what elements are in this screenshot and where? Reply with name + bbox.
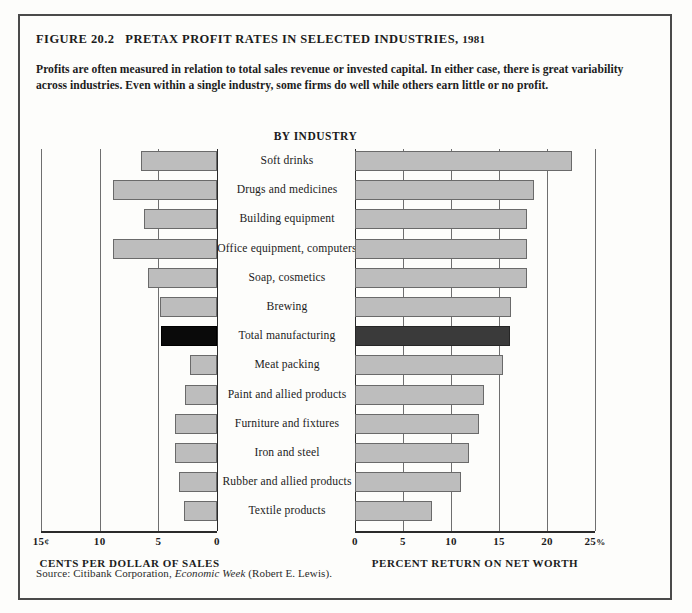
axis-tick-label: 15¢: [33, 535, 49, 547]
bar: [355, 414, 479, 434]
bar: [113, 180, 217, 200]
panel-percent-return: 0510152025% PERCENT RETURN ON NET WORTH: [355, 149, 595, 531]
bar: [190, 355, 217, 375]
figure-page: FIGURE 20.2 PRETAX PROFIT RATES IN SELEC…: [0, 0, 692, 613]
industry-label: Soft drinks: [217, 151, 357, 171]
chart-area: BY INDUSTRY 15¢1050 CENTS PER DOLLAR OF …: [20, 126, 670, 566]
axis-tick-label: 25%: [585, 535, 606, 547]
industry-label: Office equipment, computers: [217, 239, 357, 259]
bar: [355, 355, 503, 375]
panel-cents-per-dollar: 15¢1050 CENTS PER DOLLAR OF SALES: [41, 149, 217, 531]
bar: [184, 501, 217, 521]
gridline: [100, 149, 101, 531]
plot-right: [355, 149, 595, 531]
axis-tick-label: 10: [94, 535, 106, 547]
axis-tick-label: 5: [155, 535, 161, 547]
bar: [355, 443, 469, 463]
industry-label: Total manufacturing: [217, 326, 357, 346]
figure-title-text: PRETAX PROFIT RATES IN SELECTED INDUSTRI…: [125, 32, 458, 46]
bar: [113, 239, 217, 259]
industry-label: Rubber and allied products: [217, 472, 357, 492]
bar: [355, 180, 534, 200]
plot-left: [41, 149, 217, 531]
bar: [355, 472, 461, 492]
bar: [161, 326, 217, 346]
industry-label: Iron and steel: [217, 443, 357, 463]
bar: [355, 209, 527, 229]
bar: [160, 297, 217, 317]
source-note: Source: Citibank Corporation, Economic W…: [36, 567, 332, 579]
bar: [355, 385, 484, 405]
source-prefix: Source: Citibank Corporation,: [36, 567, 172, 579]
axis-tick-label: 0: [214, 535, 220, 547]
figure-frame: FIGURE 20.2 PRETAX PROFIT RATES IN SELEC…: [18, 14, 672, 600]
bar: [355, 239, 527, 259]
figure-label: FIGURE 20.2: [36, 32, 115, 46]
industry-label: Soap, cosmetics: [217, 268, 357, 288]
gridline: [595, 149, 596, 531]
industry-label: Furniture and fixtures: [217, 414, 357, 434]
bar: [141, 151, 217, 171]
axis-tick-label: 15: [493, 535, 505, 547]
industry-label: Textile products: [217, 501, 357, 521]
bar: [144, 209, 217, 229]
axis-tick-label: 5: [400, 535, 406, 547]
bar: [179, 472, 217, 492]
industry-label: Brewing: [217, 297, 357, 317]
gridline: [41, 149, 42, 531]
bar: [355, 297, 511, 317]
page-title: FIGURE 20.2 PRETAX PROFIT RATES IN SELEC…: [36, 32, 485, 47]
source-publication: Economic Week: [175, 567, 246, 579]
figure-description: Profits are often measured in relation t…: [36, 62, 636, 94]
industry-label: Drugs and medicines: [217, 180, 357, 200]
bar: [148, 268, 217, 288]
bar: [355, 151, 572, 171]
industry-label: Paint and allied products: [217, 385, 357, 405]
industry-label: Meat packing: [217, 355, 357, 375]
column-header-by-industry: BY INDUSTRY: [243, 130, 388, 142]
figure-year: 1981: [462, 33, 485, 45]
axis-tick-label: 0: [352, 535, 358, 547]
axis-caption-right: PERCENT RETURN ON NET WORTH: [355, 557, 595, 569]
bar: [355, 501, 432, 521]
axis-tick-label: 20: [541, 535, 553, 547]
axis-tick-label: 10: [445, 535, 457, 547]
bar: [175, 414, 217, 434]
axis-line-right: [355, 531, 595, 533]
industry-label-column: Soft drinksDrugs and medicinesBuilding e…: [217, 149, 357, 531]
axis-line-left: [41, 531, 217, 533]
industry-label: Building equipment: [217, 209, 357, 229]
bar: [185, 385, 217, 405]
gridline: [547, 149, 548, 531]
bar: [175, 443, 217, 463]
bar: [355, 268, 527, 288]
gridline: [158, 149, 159, 531]
bar: [355, 326, 510, 346]
source-suffix: (Robert E. Lewis).: [248, 567, 332, 579]
